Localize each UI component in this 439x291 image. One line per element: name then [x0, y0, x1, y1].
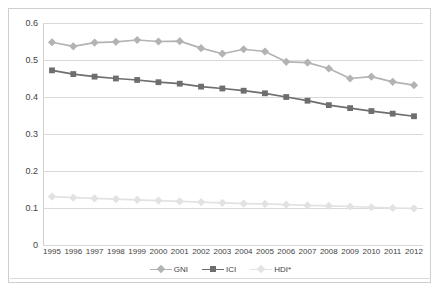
series-hdi — [48, 192, 418, 212]
data-point-marker — [49, 67, 55, 73]
data-point-marker — [177, 81, 183, 87]
legend-swatch-icon — [202, 265, 224, 274]
series-canvas — [43, 23, 423, 245]
data-point-marker — [176, 37, 184, 45]
data-point-marker — [410, 204, 418, 212]
data-point-marker — [69, 42, 77, 50]
data-point-marker — [154, 196, 162, 204]
data-point-marker — [156, 79, 162, 85]
y-axis-tick-label: 0.1 — [25, 203, 38, 213]
data-point-marker — [325, 202, 333, 210]
data-point-marker — [90, 194, 98, 202]
data-point-marker — [198, 84, 204, 90]
data-point-marker — [367, 73, 375, 81]
data-point-marker — [154, 37, 162, 45]
x-axis-tick-label: 2011 — [384, 247, 401, 256]
legend-swatch-icon — [150, 265, 172, 274]
data-point-marker — [112, 195, 120, 203]
x-axis-tick-label: 1998 — [107, 247, 125, 256]
data-point-marker — [218, 199, 226, 207]
x-axis-tick-label: 2004 — [235, 247, 253, 256]
legend-label: ICI — [226, 265, 236, 274]
gridline — [43, 245, 423, 246]
data-point-marker — [240, 199, 248, 207]
chart-legend: GNIICIHDI* — [9, 261, 432, 277]
data-point-marker — [326, 102, 332, 108]
data-point-marker — [346, 202, 354, 210]
series-ici — [49, 67, 417, 119]
data-point-marker — [369, 108, 375, 114]
y-axis-tick-label: 0.2 — [25, 166, 38, 176]
data-point-marker — [133, 36, 141, 44]
y-axis-tick-label: 0.6 — [25, 18, 38, 28]
data-point-marker — [411, 113, 417, 119]
legend-entry-ici[interactable]: ICI — [202, 265, 236, 274]
data-point-marker — [390, 111, 396, 117]
legend-entry-hdi[interactable]: HDI* — [250, 265, 291, 274]
cut-off-caption: · · — [300, 0, 430, 7]
legend-label: HDI* — [274, 265, 291, 274]
data-point-marker — [282, 58, 290, 66]
x-axis-tick-label: 1999 — [128, 247, 146, 256]
x-axis-tick-label: 2007 — [299, 247, 317, 256]
x-axis-tick-label: 2002 — [192, 247, 210, 256]
legend-label: GNI — [174, 265, 188, 274]
data-point-marker — [218, 50, 226, 58]
data-point-marker — [347, 105, 353, 111]
legend-swatch-icon — [250, 265, 272, 274]
data-point-marker — [90, 39, 98, 47]
legend-entry-gni[interactable]: GNI — [150, 265, 188, 274]
x-axis-tick-label: 2006 — [277, 247, 295, 256]
x-axis-tick-label: 1996 — [64, 247, 82, 256]
x-axis-tick-label: 2009 — [341, 247, 359, 256]
x-axis-tick-label: 2000 — [150, 247, 168, 256]
y-axis-tick-label: 0 — [33, 240, 38, 250]
x-axis-tick-label: 1997 — [86, 247, 104, 256]
data-point-marker — [303, 201, 311, 209]
data-point-marker — [346, 74, 354, 82]
data-point-marker — [48, 38, 56, 46]
y-axis-tick-label: 0.3 — [25, 129, 38, 139]
data-point-marker — [69, 194, 77, 202]
data-point-marker — [70, 71, 76, 77]
data-point-marker — [219, 86, 225, 92]
data-point-marker — [282, 201, 290, 209]
x-axis-tick-label: 2001 — [171, 247, 189, 256]
data-point-marker — [389, 78, 397, 86]
series-gni — [48, 36, 418, 89]
x-axis-tick-label: 2008 — [320, 247, 338, 256]
data-point-marker — [176, 197, 184, 205]
x-axis-tick-label: 2010 — [363, 247, 381, 256]
data-point-marker — [197, 198, 205, 206]
data-point-marker — [389, 204, 397, 212]
data-point-marker — [261, 200, 269, 208]
data-point-marker — [197, 44, 205, 52]
data-point-marker — [48, 192, 56, 200]
plot-area: 00.10.20.30.40.50.6 — [43, 23, 423, 245]
data-point-marker — [113, 76, 119, 82]
data-point-marker — [303, 58, 311, 66]
data-point-marker — [133, 196, 141, 204]
data-point-marker — [134, 77, 140, 83]
x-axis-tick-label: 1995 — [43, 247, 61, 256]
chart-card: 00.10.20.30.40.50.6 19951996199719981999… — [8, 8, 431, 283]
legend-separator — [10, 278, 431, 279]
data-point-marker — [240, 45, 248, 53]
series-line — [52, 197, 414, 209]
x-axis-tick-label: 2005 — [256, 247, 274, 256]
data-point-marker — [325, 64, 333, 72]
x-axis-tick-label: 2003 — [213, 247, 231, 256]
x-axis-tick-labels: 1995199619971998199920002001200220032004… — [43, 247, 423, 261]
data-point-marker — [112, 38, 120, 46]
data-point-marker — [241, 88, 247, 94]
data-point-marker — [262, 90, 268, 96]
y-axis-tick-label: 0.4 — [25, 92, 38, 102]
data-point-marker — [92, 74, 98, 80]
data-point-marker — [283, 94, 289, 100]
x-axis-tick-label: 2012 — [405, 247, 423, 256]
data-point-marker — [261, 47, 269, 55]
data-point-marker — [410, 81, 418, 89]
data-point-marker — [305, 98, 311, 104]
y-axis-tick-label: 0.5 — [25, 55, 38, 65]
data-point-marker — [367, 203, 375, 211]
